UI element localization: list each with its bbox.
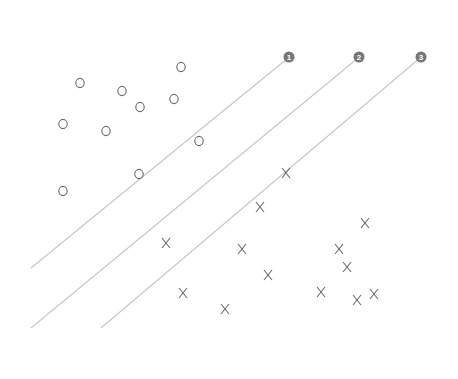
diagram-canvas: 123 [0,0,458,379]
class-x-point [335,244,343,254]
boundary-line-2: 2 [31,52,365,329]
class-x-point [179,288,187,298]
class-x-point [317,287,325,297]
class-o-point [76,78,84,87]
class-x-point [221,304,229,314]
class-o-point [59,119,67,128]
class-x-point [370,289,378,299]
class-o-point [136,102,144,111]
class-x-point [238,244,246,254]
class-o-point [118,86,126,95]
line-number-label: 2 [357,53,362,62]
class-x-point [264,270,272,280]
boundary-line-3: 3 [101,52,427,329]
class-x-point [282,168,290,178]
class-o-point [170,94,178,103]
class-o-point [135,169,143,178]
line-number-label: 3 [419,53,424,62]
svm-hyperplane-diagram: 123 [0,0,458,379]
class-x-point [256,202,264,212]
class-o-point [195,136,203,145]
class-o-point [177,62,185,71]
boundary-line-1: 1 [31,52,295,269]
class-o-point [59,186,67,195]
line-number-label: 1 [287,53,292,62]
class-x-point [353,295,361,305]
class-x-point [162,238,170,248]
class-x-point [361,218,369,228]
class-x-point [343,262,351,272]
class-o-point [102,126,110,135]
